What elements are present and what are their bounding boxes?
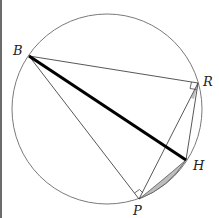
- label-R: R: [202, 74, 213, 89]
- right-angle-mark-P: [135, 190, 144, 194]
- shaded-lens-PH: [139, 160, 186, 199]
- segment-BH-thick: [29, 56, 186, 160]
- segment-BP: [29, 56, 139, 199]
- geometry-diagram: B R H P: [0, 0, 219, 218]
- label-B: B: [12, 43, 23, 58]
- segment-BR: [29, 56, 198, 83]
- label-H: H: [192, 158, 205, 173]
- label-P: P: [132, 203, 142, 218]
